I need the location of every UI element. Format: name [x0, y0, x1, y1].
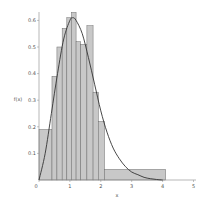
histogram-chart: 012345 0.10.20.30.40.50.6 x f(x): [0, 0, 203, 205]
histogram-bar: [76, 42, 81, 180]
histogram-bar: [105, 169, 166, 180]
y-ticks: 0.10.20.30.40.50.6: [28, 17, 39, 156]
histogram-bar: [71, 12, 76, 180]
x-tick-label: 5: [192, 183, 195, 189]
y-tick-label: 0.4: [28, 70, 36, 76]
histogram-bar: [67, 18, 72, 180]
histogram-bar: [98, 121, 104, 180]
x-ticks: 012345: [34, 180, 195, 189]
histogram-bar: [93, 92, 98, 180]
histogram-bar: [87, 26, 93, 180]
histogram-bar: [57, 47, 62, 180]
x-tick-label: 3: [130, 183, 133, 189]
y-tick-label: 0.5: [28, 44, 36, 50]
x-tick-label: 4: [161, 183, 164, 189]
y-tick-label: 0.2: [28, 124, 36, 130]
y-tick-label: 0.6: [28, 17, 36, 23]
y-axis-label: f(x): [14, 96, 23, 102]
histogram-bars: [39, 12, 166, 180]
y-tick-label: 0.3: [28, 97, 36, 103]
x-tick-label: 2: [99, 183, 102, 189]
x-tick-label: 0: [34, 183, 37, 189]
x-axis-label: x: [116, 192, 119, 198]
y-tick-label: 0.1: [28, 150, 36, 156]
x-tick-label: 1: [68, 183, 71, 189]
histogram-bar: [62, 28, 67, 180]
histogram-bar: [81, 44, 87, 180]
